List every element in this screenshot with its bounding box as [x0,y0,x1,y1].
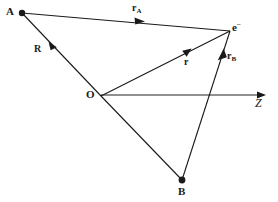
vector-diagram-figure: A e– O B rA R r rB Z [0,0,278,202]
vertex-label-e-minus: e– [232,21,240,33]
vertex-label-e-superscript: – [237,20,241,28]
line-O-to-B [101,96,182,180]
vector-arrowhead-rB [218,49,227,61]
vector-label-R: R [34,44,41,54]
z-axis-label: Z [255,97,262,109]
vector-line-r [101,31,230,96]
vertex-label-A: A [6,6,14,17]
vertex-label-O: O [86,89,95,100]
vector-label-r: r [184,57,188,67]
vertex-dot-B [179,177,186,184]
vector-line-R [22,13,101,96]
vertex-label-B: B [178,186,185,197]
vector-label-rA: rA [132,3,142,13]
vector-label-rA-subscript: A [136,7,141,15]
vector-line-rA [22,13,230,31]
vector-label-rB: rB [227,51,236,61]
vertex-dot-A [19,10,25,16]
vector-label-rB-subscript: B [231,55,236,63]
